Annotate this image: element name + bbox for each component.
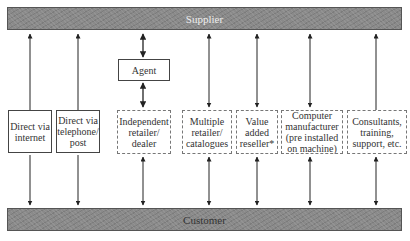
channel-label: Independent retailer/ dealer — [118, 116, 170, 149]
channel-direct-telephone: Direct via telephone/ post — [56, 110, 100, 153]
agent-label: Agent — [132, 65, 156, 76]
channel-label: Multiple retailer/ catalogues — [183, 116, 231, 149]
channel-computer-manufacturer: Computer manufacturer (pre installed on … — [281, 110, 343, 154]
agent-box: Agent — [118, 59, 170, 81]
channel-label: Direct via internet — [9, 121, 51, 143]
channel-consultants: Consultants, training, support, etc. — [347, 110, 407, 154]
channel-label: Consultants, training, support, etc. — [348, 116, 406, 149]
channel-independent-retailer: Independent retailer/ dealer — [117, 110, 171, 154]
channel-label: Computer manufacturer (pre installed on … — [282, 110, 342, 154]
channel-label: Direct via telephone/ post — [57, 115, 99, 148]
channel-multiple-retailer: Multiple retailer/ catalogues — [182, 110, 232, 154]
channel-value-added-reseller: Value added reseller* — [236, 110, 278, 154]
channel-direct-internet: Direct via internet — [8, 110, 52, 153]
channel-label: Value added reseller* — [237, 116, 277, 149]
